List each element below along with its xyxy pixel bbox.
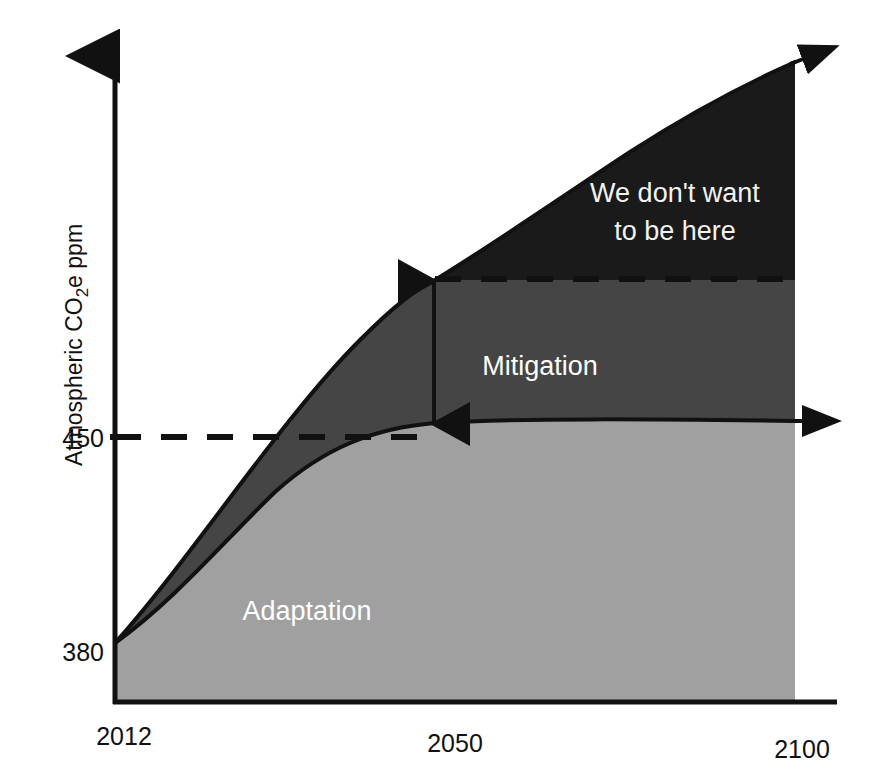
x-tick-label-2050: 2050	[427, 729, 483, 757]
band-label-mitigation: Mitigation	[482, 351, 598, 381]
y-axis-title-sub: 2	[73, 288, 92, 297]
x-tick-label-2012: 2012	[96, 722, 152, 750]
y-tick-label-380: 380	[62, 638, 104, 666]
chart-container: Atmospheric CO2e ppm 450 380 2012 2050 2…	[0, 0, 875, 784]
band-label-adaptation: Adaptation	[242, 596, 371, 626]
band-label-we-dont-want-to-be-here-line1: We don't want	[590, 178, 760, 208]
band-label-we-dont-want-to-be-here-line2: to be here	[614, 216, 736, 246]
adaptation-band-area	[115, 419, 795, 702]
bau-pathway-arrow	[790, 58, 806, 64]
x-tick-label-2100: 2100	[774, 735, 830, 763]
y-tick-label-450: 450	[62, 424, 104, 452]
climate-pathways-area-chart: Atmospheric CO2e ppm 450 380 2012 2050 2…	[0, 0, 875, 784]
y-axis-title-suffix: e ppm	[61, 224, 87, 288]
